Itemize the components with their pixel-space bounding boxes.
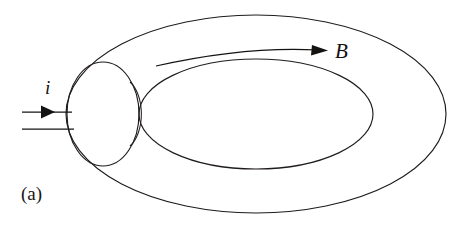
- figure-toroid-diagram: B i (a): [0, 0, 467, 229]
- panel-label: (a): [21, 183, 42, 205]
- label-current: i: [45, 77, 50, 98]
- toroid-svg-canvas: B i (a): [0, 0, 467, 229]
- donut-hole-fill: [139, 59, 373, 169]
- label-magnetic-field: B: [335, 39, 348, 63]
- current-arrow-head: [41, 106, 55, 119]
